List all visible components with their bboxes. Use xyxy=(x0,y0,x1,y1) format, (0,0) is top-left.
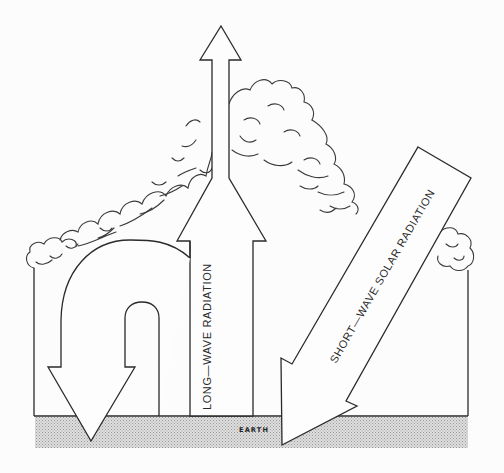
greenhouse-effect-diagram: LONG—WAVE RADIATION SHORT—WAVE SOLAR RAD… xyxy=(0,0,504,473)
long-wave-back-radiation-arrow xyxy=(48,240,190,441)
long-wave-label: LONG—WAVE RADIATION xyxy=(201,263,213,410)
earth-label: EARTH xyxy=(239,426,269,434)
